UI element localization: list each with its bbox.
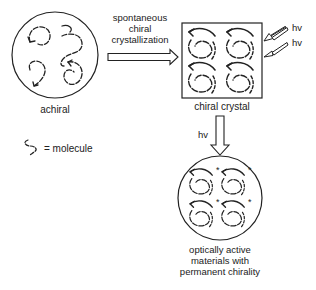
chirality-marker: * xyxy=(248,197,252,207)
hv-arrow-bottom xyxy=(264,51,273,57)
achiral-label: achiral xyxy=(40,104,69,115)
achiral-solution: achiral xyxy=(12,12,98,115)
irradiation-arrow xyxy=(211,116,229,155)
crystallization-step: spontaneous chiral crystallization xyxy=(108,12,178,65)
molecule-legend: = molecule xyxy=(25,140,93,156)
chiral-crystal-label: chiral crystal xyxy=(194,101,250,112)
molecule-icon xyxy=(25,140,36,156)
optically-active-material: **** optically active materials with per… xyxy=(178,156,262,277)
achiral-circle xyxy=(12,12,98,98)
hv-label-top: hv xyxy=(292,22,302,33)
process-label-line1: spontaneous xyxy=(113,12,168,23)
result-label-line1: optically active xyxy=(189,244,251,255)
crystallization-arrow xyxy=(108,50,178,65)
process-label-line3: crystallization xyxy=(111,34,168,45)
hv-label-bottom: hv xyxy=(292,37,302,48)
chirality-diagram: achiral = molecule spontaneous chiral cr… xyxy=(0,0,316,290)
chirality-marker: * xyxy=(216,165,220,175)
irradiation-step: hv xyxy=(198,116,229,155)
random-molecules xyxy=(28,25,82,86)
process-label-line2: chiral xyxy=(129,23,152,34)
chiral-crystal: chiral crystal xyxy=(182,23,262,112)
chirality-marker: * xyxy=(216,197,220,207)
hv-label-down: hv xyxy=(198,129,208,140)
result-label-line2: materials with xyxy=(191,255,249,266)
chirality-marker: * xyxy=(248,165,252,175)
molecule-legend-label: = molecule xyxy=(44,143,93,154)
light-input: hv hv xyxy=(264,22,302,57)
result-label-line3: permanent chirality xyxy=(180,266,261,277)
